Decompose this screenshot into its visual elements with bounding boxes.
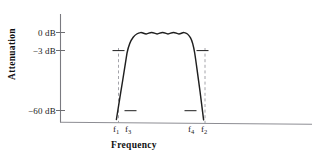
filter-response-figure: 0 dB −3 dB −60 dB f1 f3 f4 f2 Frequency … [0,0,319,159]
x-tick-label-f1-sub: 1 [116,128,119,135]
y-axis-title: Attenuation [7,14,17,94]
x-tick-label-f4: f4 [188,124,194,134]
x-axis-title: Frequency [0,140,268,150]
y-tick-label-minus3db: −3 dB [22,46,56,56]
attenuation-plot [0,0,319,159]
x-tick-label-f1: f1 [113,124,119,134]
plot-background [0,0,319,159]
y-tick-label-minus60db: −60 dB [18,106,56,116]
x-tick-label-f2-sub: 2 [204,128,207,135]
x-tick-label-f3-sub: 3 [128,128,131,135]
x-tick-label-f4-sub: 4 [191,128,194,135]
x-tick-label-f2: f2 [201,124,207,134]
x-tick-label-f3: f3 [125,124,131,134]
y-tick-label-0db: 0 dB [22,28,56,38]
